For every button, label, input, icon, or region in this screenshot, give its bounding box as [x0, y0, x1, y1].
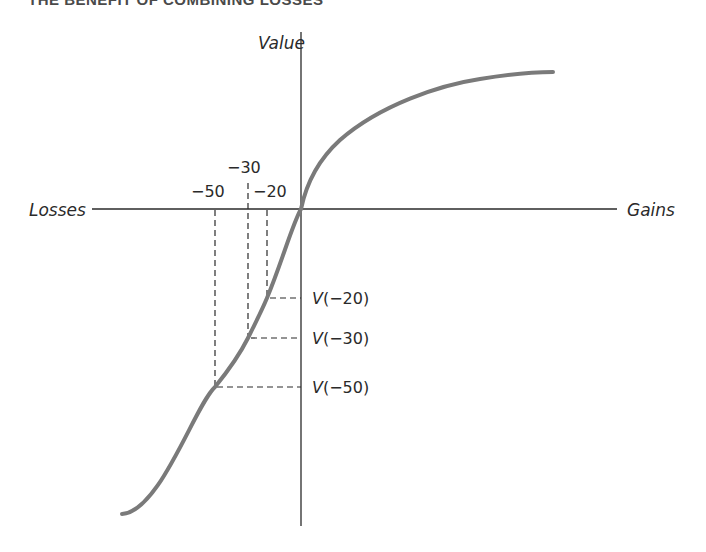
losses-axis-label: Losses	[29, 200, 86, 220]
value-function-chart: Value Losses Gains −50 −30 −20 V(−20) V(…	[0, 0, 706, 552]
tick-label-m20: −20	[253, 182, 287, 201]
value-label-v20: V(−20)	[312, 289, 369, 308]
value-label-v50: V(−50)	[312, 378, 369, 397]
value-label-v30: V(−30)	[312, 329, 369, 348]
tick-label-m50: −50	[191, 182, 225, 201]
value-axis-label: Value	[258, 33, 305, 53]
gains-axis-label: Gains	[627, 200, 675, 220]
tick-label-m30: −30	[227, 158, 261, 177]
